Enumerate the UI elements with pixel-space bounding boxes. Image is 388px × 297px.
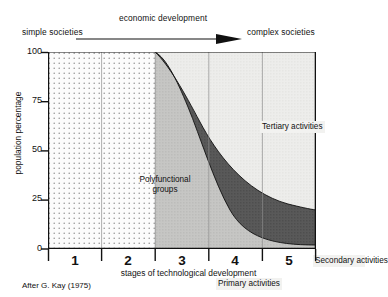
- x-tick-5: 5: [269, 253, 309, 268]
- x-axis-label: stages of technological development: [0, 268, 337, 278]
- x-axis-label-text: stages of technological development: [121, 268, 257, 278]
- source-credit: After G. Kay (1975): [22, 281, 91, 290]
- x-tick-4: 4: [215, 253, 255, 268]
- x-tick-3: 3: [162, 253, 202, 268]
- x-tick-1: 1: [55, 253, 95, 268]
- x-tick-2: 2: [108, 253, 148, 268]
